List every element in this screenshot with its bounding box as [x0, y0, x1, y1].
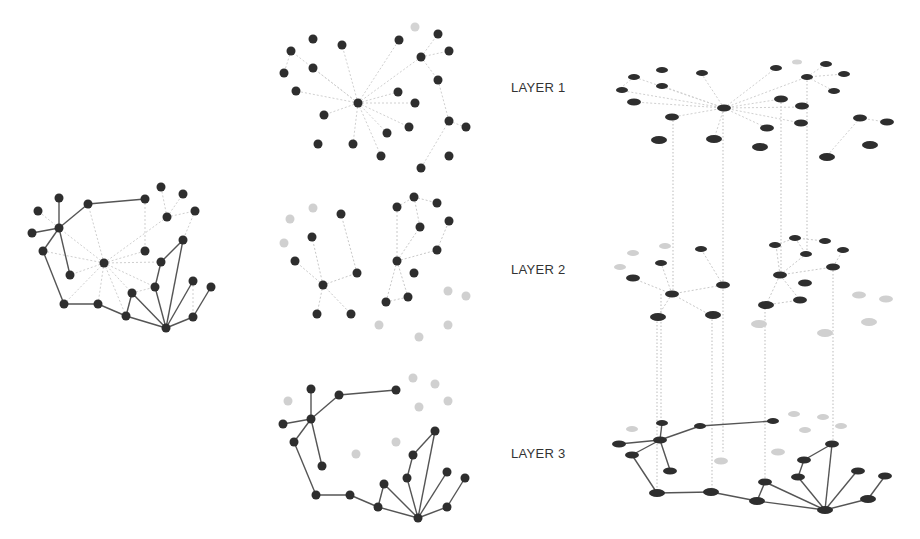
aggregated-network [28, 183, 216, 333]
multilayer-network-diagram [0, 0, 920, 539]
stack-layer-2 [614, 235, 893, 337]
layer-2-network [280, 193, 471, 342]
stack-layer-3 [612, 411, 892, 514]
layer-1-network [280, 23, 471, 173]
stack-layer-1 [616, 60, 894, 162]
multilayer-stack [612, 60, 894, 515]
layer-3-network [279, 374, 470, 523]
